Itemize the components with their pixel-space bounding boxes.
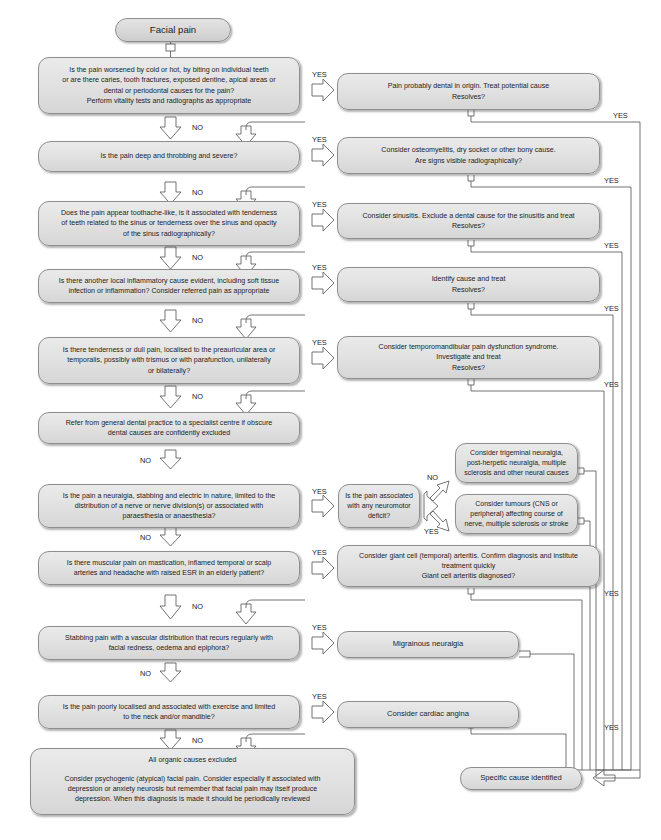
node-specific-cause-identified[interactable]: Specific cause identified [460,767,582,790]
label-no-row7: NO [140,533,151,542]
node-outcome-identify-cause[interactable]: Identify cause and treat Resolves? [337,267,600,302]
label-yes-right2: YES [604,176,619,185]
node-outcome-giant-cell-arteritis[interactable]: Consider giant cell (temporal) arteritis… [337,545,600,587]
node-question-neuromotor-deficit[interactable]: Is the pain associated with any neuromot… [338,484,420,528]
label-yes-right5: YES [604,380,619,389]
label-yes-row8: YES [312,623,327,632]
label-yes-row6: YES [312,487,327,496]
label-branch-no: NO [427,473,438,482]
node-question-neuralgia[interactable]: Is the pain a neuralgia, stabbing and el… [38,484,300,528]
label-branch-yes: YES [424,527,439,536]
final-heading: All organic causes excluded [37,755,348,765]
node-question-vascular-stabbing[interactable]: Stabbing pain with a vascular distributi… [38,626,300,660]
node-outcome-trigeminal-neuralgia[interactable]: Consider trigeminal neuralgia, post-herp… [455,443,578,483]
label-no-row6: NO [140,456,151,465]
node-question-sinusitis[interactable]: Does the pain appear toothache-like, is … [38,201,300,246]
label-no-row1: NO [192,123,203,132]
final-body: Consider psychogenic (atypical) facial p… [37,774,348,804]
label-yes-row7: YES [312,548,327,557]
label-yes-row5: YES [312,338,327,347]
node-question-giant-cell-arteritis[interactable]: Is there muscular pain on mastication, i… [38,551,300,585]
node-question-deep-throbbing[interactable]: Is the pain deep and throbbing and sever… [38,141,300,172]
label-no-row8: NO [192,602,203,611]
label-yes-row1: YES [312,70,327,79]
node-start-facial-pain[interactable]: Facial pain [115,18,231,42]
node-outcome-dental-origin[interactable]: Pain probably dental in origin. Treat po… [337,73,600,110]
label-no-row9: NO [140,669,151,678]
label-yes-row4: YES [312,263,327,272]
flowchart-canvas: Facial pain Is the pain worsened by cold… [0,0,661,840]
node-outcome-tumours[interactable]: Consider tumours (CNS or peripheral) aff… [455,494,578,534]
node-final-psychogenic[interactable]: All organic causes excluded Consider psy… [30,748,355,815]
node-outcome-migrainous-neuralgia[interactable]: Migrainous neuralgia [337,631,519,658]
label-yes-right6: YES [604,589,619,598]
node-question-tmj[interactable]: Is there tenderness or dull pain, locali… [38,337,300,384]
label-yes-row3: YES [312,200,327,209]
label-yes-right7: YES [604,723,619,732]
label-no-row4: NO [192,316,203,325]
node-refer-specialist[interactable]: Refer from general dental practice to a … [38,412,300,444]
label-no-row10: NO [192,736,203,745]
label-yes-row9: YES [312,692,327,701]
label-yes-right4: YES [604,304,619,313]
label-no-row5: NO [192,392,203,401]
label-yes-right1: YES [613,111,628,120]
label-no-row2: NO [192,188,203,197]
node-outcome-tmj-syndrome[interactable]: Consider temporomandibular pain dysfunct… [337,336,600,379]
node-question-local-inflammatory[interactable]: Is there another local inflammatory caus… [38,269,300,303]
node-question-dental-causes[interactable]: Is the pain worsened by cold or hot, by … [38,57,300,114]
label-no-row3: NO [192,253,203,262]
node-outcome-cardiac-angina[interactable]: Consider cardiac angina [337,701,519,728]
label-yes-row2: YES [312,135,327,144]
node-outcome-sinusitis[interactable]: Consider sinusitis. Exclude a dental cau… [337,203,600,239]
label-yes-right3: YES [604,241,619,250]
node-question-cardiac[interactable]: Is the pain poorly localised and associa… [38,695,300,729]
node-outcome-osteomyelitis[interactable]: Consider osteomyelitis, dry socket or ot… [337,137,600,174]
